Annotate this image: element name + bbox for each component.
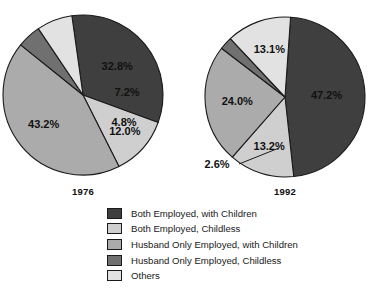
pie-1976-svg: 32.8%12.0%43.2%4.8%7.2%	[0, 0, 187, 200]
pie-panels: 32.8%12.0%43.2%4.8%7.2% 47.2%13.2%24.0%2…	[0, 0, 374, 200]
pie-panel-1992: 47.2%13.2%24.0%2.6%13.1%	[187, 0, 374, 200]
pie-label-1976-3: 4.8%	[111, 116, 136, 128]
legend-swatch-4	[107, 270, 122, 281]
pie-label-1992-3: 2.6%	[204, 158, 229, 170]
chart-legend: Both Employed, with ChildrenBoth Employe…	[107, 206, 298, 283]
pie-label-1992-1: 13.2%	[254, 140, 285, 152]
pie-1992-svg: 47.2%13.2%24.0%2.6%13.1%	[187, 0, 374, 200]
pie-chart-figure: 32.8%12.0%43.2%4.8%7.2% 47.2%13.2%24.0%2…	[0, 0, 374, 293]
legend-swatch-2	[107, 239, 122, 250]
pie-label-1976-2: 43.2%	[28, 118, 59, 130]
pie-1976-year-label: 1976	[0, 186, 166, 197]
legend-label-1: Both Employed, Childless	[131, 223, 240, 234]
legend-item-3[interactable]: Husband Only Employed, Childless	[107, 253, 298, 268]
pie-label-1992-2: 24.0%	[222, 95, 253, 107]
pie-panel-1976: 32.8%12.0%43.2%4.8%7.2%	[0, 0, 187, 200]
pie-label-1976-0: 32.8%	[102, 60, 133, 72]
legend-label-4: Others	[131, 270, 160, 281]
legend-item-4[interactable]: Others	[107, 268, 298, 283]
legend-label-3: Husband Only Employed, Childless	[131, 255, 281, 266]
pie-label-1992-4: 13.1%	[254, 43, 285, 55]
legend-label-2: Husband Only Employed, with Children	[131, 239, 298, 250]
pie-label-1976-4: 7.2%	[114, 86, 139, 98]
legend-item-0[interactable]: Both Employed, with Children	[107, 206, 298, 221]
legend-item-1[interactable]: Both Employed, Childless	[107, 222, 298, 237]
pie-1992-year-label: 1992	[187, 186, 374, 197]
pie-label-1992-0: 47.2%	[311, 89, 342, 101]
legend-swatch-3	[107, 255, 122, 266]
legend-swatch-1	[107, 223, 122, 234]
legend-swatch-0	[107, 208, 122, 219]
legend-label-0: Both Employed, with Children	[131, 208, 257, 219]
legend-item-2[interactable]: Husband Only Employed, with Children	[107, 237, 298, 252]
